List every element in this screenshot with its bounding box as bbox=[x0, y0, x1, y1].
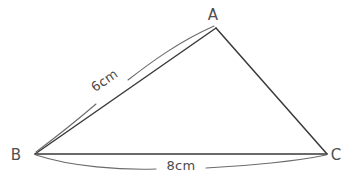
vertex-label-c: C bbox=[331, 146, 342, 164]
dimension-line-ba-upper bbox=[128, 26, 214, 80]
triangle-outline bbox=[35, 28, 327, 154]
measure-label-ba: 6cm bbox=[88, 66, 120, 95]
triangle-side-ba bbox=[35, 28, 216, 154]
dimension-line-ba bbox=[36, 26, 214, 152]
triangle-diagram: 6cm 8cm A B C bbox=[0, 0, 362, 182]
dimension-line-bc-right bbox=[206, 155, 326, 168]
triangle-side-ac bbox=[216, 28, 327, 154]
dimension-line-bc-left bbox=[36, 155, 156, 169]
vertex-label-b: B bbox=[11, 146, 22, 164]
vertex-label-a: A bbox=[208, 6, 219, 24]
measure-label-bc: 8cm bbox=[167, 158, 196, 173]
geometry-figure-canvas: 6cm 8cm A B C bbox=[0, 0, 362, 182]
dimension-line-ba-lower bbox=[36, 104, 96, 152]
